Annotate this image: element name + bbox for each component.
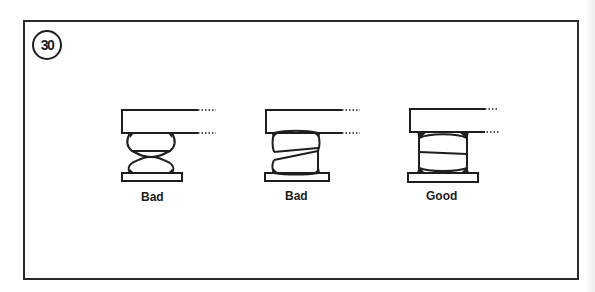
figure-number-badge: 30 xyxy=(32,30,62,60)
figure-number: 30 xyxy=(41,37,54,53)
page-edge-shadow xyxy=(585,0,595,292)
diagram-good-aligned xyxy=(405,104,505,186)
diagram-bad-tilted xyxy=(262,104,362,186)
figure-label-2: Bad xyxy=(285,189,308,203)
diagram-bad-hourglass xyxy=(118,104,218,186)
figure-label-3: Good xyxy=(426,189,457,203)
figure-label-1: Bad xyxy=(141,190,164,204)
